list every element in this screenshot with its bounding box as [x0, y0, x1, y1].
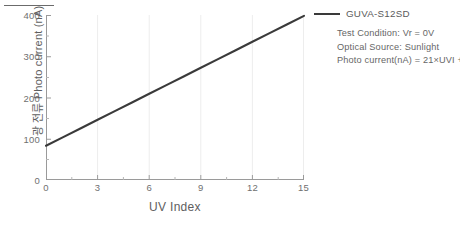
- x-tick-label: 12: [247, 182, 258, 193]
- x-tick-label: 15: [298, 182, 309, 193]
- y-axis-title: 광 전류 Photo current (nA): [29, 0, 43, 155]
- plot-canvas: [46, 15, 304, 180]
- legend-entry-label: GUVA-S12SD: [346, 8, 410, 19]
- plot-area: [46, 15, 304, 180]
- chart-figure: 400 300 200 100 0 광 전류 Photo current (nA…: [0, 0, 460, 228]
- data-series-line: [46, 16, 304, 146]
- plot-faint-rules: [98, 15, 304, 175]
- x-axis-title: UV Index: [46, 200, 304, 214]
- annotation-test-condition: Test Condition: Vr = 0V: [337, 27, 460, 41]
- x-tick-label: 9: [198, 182, 203, 193]
- x-tick-label: 6: [146, 182, 151, 193]
- x-tick-label: 3: [95, 182, 100, 193]
- y-axis-title-holder: 광 전류 Photo current (nA): [8, 50, 24, 150]
- x-tick-label: 0: [43, 182, 48, 193]
- y-major-ticks: [46, 16, 51, 180]
- legend-entry: GUVA-S12SD: [337, 8, 460, 19]
- x-axis-tick-labels: 0 3 6 9 12 15: [46, 182, 304, 196]
- chart-legend: GUVA-S12SD Test Condition: Vr = 0V Optic…: [337, 8, 460, 68]
- legend-line-swatch-icon: [314, 13, 340, 15]
- annotation-optical-source: Optical Source: Sunlight: [337, 41, 460, 55]
- annotation-equation: Photo current(nA) = 21×UVI + 83: [337, 54, 460, 68]
- y-tick-label: 0: [35, 175, 40, 186]
- x-minor-ticks: [72, 177, 278, 180]
